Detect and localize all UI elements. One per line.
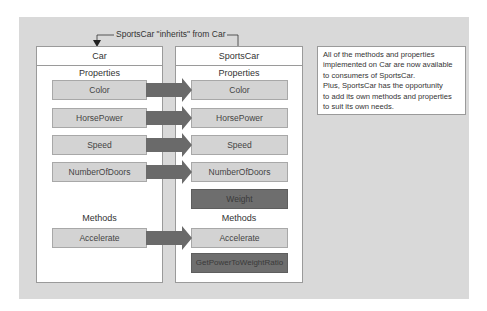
sportscar-property-speed: Speed <box>191 135 288 155</box>
inherit-arrow-icon <box>146 106 193 130</box>
callout-line: All of the methods and properties <box>323 50 460 60</box>
sportscar-property-numberofdoors: NumberOfDoors <box>191 162 288 182</box>
callout-line: Plus, SportsCar has the opportunity <box>323 81 460 91</box>
car-methods-label: Methods <box>37 213 162 223</box>
sportscar-property-horsepower: HorsePower <box>191 108 288 128</box>
sportscar-method-getpowertoweightratio: GetPowerToWeightRatio <box>191 253 288 273</box>
sportscar-property-weight: Weight <box>191 189 288 209</box>
sportscar-class-title: SportsCar <box>176 47 302 66</box>
callout-line: to suit its own needs. <box>323 102 460 112</box>
sportscar-property-color: Color <box>191 80 288 100</box>
car-class-panel: Car Properties Color HorsePower Speed Nu… <box>36 46 163 283</box>
sportscar-method-accelerate: Accelerate <box>191 228 288 248</box>
inheritance-label: SportsCar "inherits" from Car <box>114 29 227 39</box>
car-property-numberofdoors: NumberOfDoors <box>52 162 147 182</box>
car-property-speed: Speed <box>52 135 147 155</box>
callout-line: to add its own methods and properties <box>323 92 460 102</box>
callout-line: to consumers of SportsCar. <box>323 71 460 81</box>
sportscar-methods-label: Methods <box>176 213 302 223</box>
explanation-callout: All of the methods and properties implem… <box>317 46 466 115</box>
car-method-accelerate: Accelerate <box>52 228 147 248</box>
car-properties-label: Properties <box>37 68 162 78</box>
inherit-arrow-icon <box>146 160 193 184</box>
callout-line: implemented on Car are now available <box>323 60 460 70</box>
inherit-arrow-icon <box>146 133 193 157</box>
car-class-title: Car <box>37 47 162 66</box>
inherit-arrow-icon <box>146 78 193 102</box>
sportscar-properties-label: Properties <box>176 68 302 78</box>
car-property-color: Color <box>52 80 147 100</box>
sportscar-class-panel: SportsCar Properties Color HorsePower Sp… <box>175 46 303 283</box>
inherit-arrow-icon <box>146 226 193 250</box>
car-property-horsepower: HorsePower <box>52 108 147 128</box>
